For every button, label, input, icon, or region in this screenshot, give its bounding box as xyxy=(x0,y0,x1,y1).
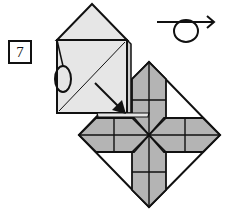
turn-over-icon xyxy=(157,16,214,42)
origami-diagram: 7 xyxy=(0,0,230,223)
